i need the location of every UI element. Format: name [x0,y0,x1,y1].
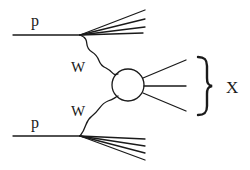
label-w-boson-bottom: W [71,104,85,119]
w-boson-top [80,35,118,75]
proton-remnants-bottom [80,136,145,160]
label-proton-top: p [31,13,39,29]
proton-remnants-top [80,10,145,35]
final-state-brace [198,57,212,115]
feynman-diagram: p W W p X [0,0,250,170]
label-proton-bottom: p [31,115,39,131]
label-w-boson-top: W [71,60,85,75]
label-final-state-x: X [226,79,238,96]
interaction-blob [112,69,144,101]
final-state-lines [143,60,186,111]
w-boson-bottom [80,96,118,136]
